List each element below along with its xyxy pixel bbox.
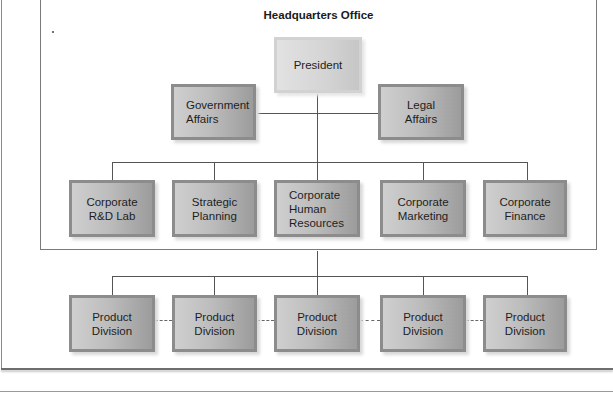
connector-div-1	[112, 276, 113, 295]
staff-box-legal-affairs: Legal Affairs	[378, 84, 464, 140]
outer-frame-left-border	[1, 0, 2, 369]
dashed-link-1-2	[155, 320, 172, 321]
connector-dept-1	[112, 162, 113, 180]
connector-div-4	[423, 276, 424, 295]
connector-divisions-bar	[112, 276, 528, 277]
connector-hq-to-divisions	[317, 251, 318, 295]
connector-div-2	[214, 276, 215, 295]
connector-dept-4	[423, 162, 424, 180]
footer-divider	[0, 391, 613, 392]
staff-box-government-affairs: Government Affairs	[171, 84, 256, 140]
president-box: President	[274, 37, 362, 93]
connector-div-5	[527, 276, 528, 295]
dept-box-marketing: Corporate Marketing	[380, 180, 466, 237]
dept-box-finance: Corporate Finance	[483, 180, 567, 237]
outer-frame-bottom-border	[1, 368, 613, 370]
dept-box-strategic-planning: Strategic Planning	[172, 180, 257, 237]
division-box-3: Product Division	[274, 295, 360, 352]
connector-departments-bar	[112, 162, 528, 163]
division-box-5: Product Division	[483, 295, 567, 352]
dashed-link-3-4	[360, 320, 380, 321]
dept-box-rd-lab: Corporate R&D Lab	[69, 180, 155, 237]
dashed-link-2-3	[257, 320, 274, 321]
stray-dot	[52, 31, 54, 33]
connector-staff	[258, 113, 379, 114]
dept-box-human-resources: Corporate Human Resources	[274, 180, 360, 237]
connector-dept-2	[214, 162, 215, 180]
connector-dept-5	[527, 162, 528, 180]
division-box-4: Product Division	[380, 295, 466, 352]
connector-president-trunk	[317, 93, 318, 163]
division-box-2: Product Division	[172, 295, 257, 352]
headquarters-title: Headquarters Office	[40, 9, 597, 21]
connector-dept-3	[317, 162, 318, 180]
division-box-1: Product Division	[69, 295, 155, 352]
dashed-link-4-5	[466, 320, 483, 321]
